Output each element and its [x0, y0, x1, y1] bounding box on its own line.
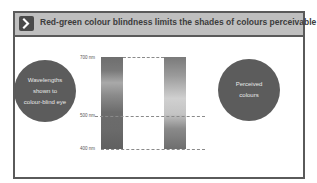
- circle-text-line: Wavelengths: [28, 75, 62, 86]
- circle-text-line: Perceived: [236, 79, 263, 90]
- circle-text-line: colours: [239, 90, 258, 101]
- dashed-line-700: [123, 57, 164, 58]
- slide-title: Red-green colour blindness limits the sh…: [40, 17, 316, 27]
- perceived-spectrum-bar: [164, 57, 186, 149]
- title-bar: Red-green colour blindness limits the sh…: [15, 13, 303, 37]
- actual-spectrum-bar: [101, 57, 123, 149]
- label-700nm: 700 nm: [80, 55, 95, 60]
- circle-text-line: shown to: [33, 86, 57, 97]
- label-500nm: 500 nm: [80, 113, 95, 118]
- perceived-colours-circle: Perceived colours: [218, 59, 280, 121]
- circle-text-line: colour-blind eye: [24, 97, 66, 108]
- chevron-right-icon: [19, 16, 34, 31]
- wavelengths-circle: Wavelengths shown to colour-blind eye: [14, 60, 76, 122]
- dashed-line-500: [95, 116, 205, 117]
- dashed-line-400: [101, 149, 205, 150]
- label-400nm: 400 nm: [80, 146, 95, 151]
